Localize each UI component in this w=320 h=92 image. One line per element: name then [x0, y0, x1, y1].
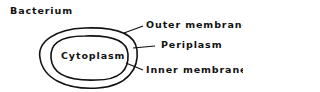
outer-membrane-pointer	[124, 26, 143, 33]
outer-membrane-label: Outer membrane	[146, 19, 243, 30]
inner-membrane-label: Inner membrane	[146, 64, 243, 75]
cytoplasm-label: Cytoplasm	[61, 50, 125, 61]
periplasm-label: Periplasm	[161, 39, 222, 50]
